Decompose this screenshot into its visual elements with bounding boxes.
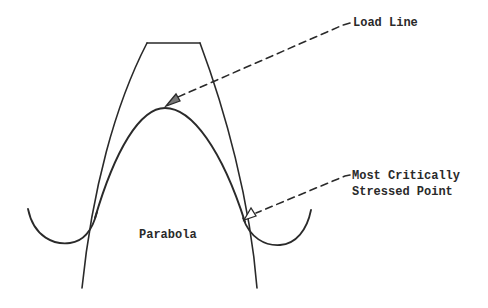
left-fillet-arc — [28, 209, 97, 243]
parabola-label: Parabola — [139, 228, 197, 243]
load-line-arrowhead-icon — [166, 94, 180, 106]
load-line-leader — [178, 23, 350, 97]
tooth-right-flank — [200, 43, 257, 288]
critical-point-label-line1: Most Critically — [352, 169, 460, 184]
critical-point-label-line2: Stressed Point — [352, 185, 453, 200]
gear-tooth-diagram — [0, 0, 488, 308]
load-line-label: Load Line — [353, 16, 418, 31]
critical-point-leader — [256, 175, 350, 213]
parabola-curve — [95, 108, 245, 222]
